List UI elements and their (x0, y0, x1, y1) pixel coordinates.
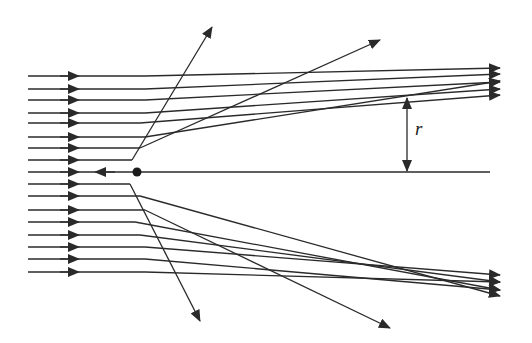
impact-parameter-label: r (415, 118, 422, 140)
scattered-ray (28, 40, 380, 148)
scattered-ray (28, 259, 500, 290)
scattering-diagram: r (0, 0, 532, 343)
outgoing-segment (145, 82, 500, 100)
diagram-canvas (0, 0, 532, 343)
scattered-ray (28, 68, 500, 76)
outgoing-segment (140, 40, 380, 148)
scattered-ray (28, 82, 500, 100)
scatterer-dot-icon (133, 168, 142, 177)
outgoing-segment (130, 184, 200, 321)
outgoing-segment (140, 235, 500, 282)
outgoing-segment (132, 27, 212, 160)
outgoing-segment (145, 68, 500, 76)
scattered-ray (28, 184, 200, 321)
outgoing-segment (145, 247, 500, 275)
incident-rays (28, 27, 500, 328)
scattered-ray (28, 210, 390, 328)
outgoing-segment (145, 210, 390, 328)
outgoing-segment (145, 272, 500, 282)
outgoing-segment (145, 74, 500, 89)
outgoing-segment (135, 222, 500, 290)
scattered-ray (28, 27, 212, 160)
